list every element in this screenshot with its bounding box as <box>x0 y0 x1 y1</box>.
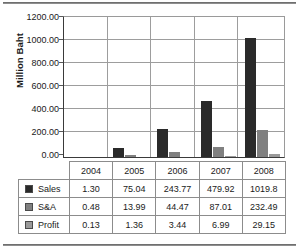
sales-swatch-icon <box>25 185 33 193</box>
bar-group-2004 <box>64 17 108 157</box>
legend-label: S&A <box>38 202 56 212</box>
column-header-year: 2007 <box>199 162 242 180</box>
chart-data-table: 2004 2005 2006 2007 2008 Sales 1.30 75.0… <box>18 161 286 234</box>
bar-sales-2008 <box>245 38 256 157</box>
bar-sa-2008 <box>257 130 268 157</box>
table-cell: 44.47 <box>156 198 199 216</box>
bar-group-2007 <box>196 17 240 157</box>
bar-group-2006 <box>152 17 196 157</box>
table-cell: 29.15 <box>242 216 285 234</box>
table-row: S&A 0.48 13.99 44.47 87.01 232.49 <box>19 198 286 216</box>
table-cell: 87.01 <box>199 198 242 216</box>
legend-label: Profit <box>38 220 59 230</box>
table-cell: 479.92 <box>199 180 242 198</box>
bar-profit-2007 <box>225 156 236 157</box>
legend-cell-sa: S&A <box>19 198 70 216</box>
bar-sa-2007 <box>213 147 224 157</box>
table-cell: 243.77 <box>156 180 199 198</box>
bar-group-2008 <box>240 17 284 157</box>
chart-figure: Million Baht 1200.00 1000.00 800.00 600.… <box>0 0 299 249</box>
figure-bottom-rule <box>3 244 296 246</box>
table-cell: 0.48 <box>70 198 113 216</box>
legend-cell-profit: Profit <box>19 216 70 234</box>
table-corner-cell <box>19 162 70 180</box>
bar-groups <box>64 17 284 157</box>
table-cell: 1.36 <box>113 216 156 234</box>
y-tick-label: 200.00 <box>31 128 59 137</box>
plot-area <box>63 16 285 158</box>
y-tick-label: 1200.00 <box>26 13 59 22</box>
bar-sa-2006 <box>169 152 180 157</box>
profit-swatch-icon <box>25 221 33 229</box>
legend-label: Sales <box>38 184 61 194</box>
column-header-year: 2004 <box>70 162 113 180</box>
table-cell: 232.49 <box>242 198 285 216</box>
plot-wrapper: 1200.00 1000.00 800.00 600.00 400.00 200… <box>0 13 299 161</box>
y-tick-label: 1000.00 <box>26 36 59 45</box>
table-cell: 1019.8 <box>242 180 285 198</box>
table-row: Sales 1.30 75.04 243.77 479.92 1019.8 <box>19 180 286 198</box>
y-tick-label: 0.00 <box>41 151 59 160</box>
sa-swatch-icon <box>25 203 33 211</box>
table-cell: 3.44 <box>156 216 199 234</box>
table-cell: 0.13 <box>70 216 113 234</box>
bar-profit-2008 <box>269 154 280 157</box>
bar-group-2005 <box>108 17 152 157</box>
figure-top-rule <box>3 2 296 4</box>
bar-sa-2005 <box>125 155 136 157</box>
bar-sales-2005 <box>113 148 124 157</box>
legend-cell-sales: Sales <box>19 180 70 198</box>
table-row: Profit 0.13 1.36 3.44 6.99 29.15 <box>19 216 286 234</box>
y-tick-label: 800.00 <box>31 59 59 68</box>
column-header-year: 2005 <box>113 162 156 180</box>
column-header-year: 2006 <box>156 162 199 180</box>
y-tick-label: 400.00 <box>31 105 59 114</box>
table-cell: 13.99 <box>113 198 156 216</box>
y-tick-label: 600.00 <box>31 82 59 91</box>
table-header-row: 2004 2005 2006 2007 2008 <box>19 162 286 180</box>
table-cell: 1.30 <box>70 180 113 198</box>
column-header-year: 2008 <box>242 162 285 180</box>
bar-sales-2007 <box>201 101 212 157</box>
y-axis-tick-labels: 1200.00 1000.00 800.00 600.00 400.00 200… <box>18 13 62 161</box>
table-cell: 6.99 <box>199 216 242 234</box>
bar-sales-2006 <box>157 129 168 157</box>
table-cell: 75.04 <box>113 180 156 198</box>
